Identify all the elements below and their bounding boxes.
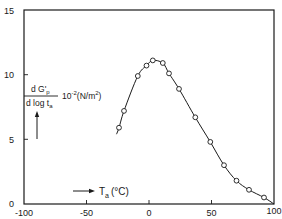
x-tick-label: 0	[146, 208, 151, 218]
x-tick-label: 50	[206, 208, 216, 218]
y-tick-label: 15	[4, 6, 14, 16]
data-curve	[117, 60, 275, 204]
y-tick-label: 10	[4, 70, 14, 80]
y-label-numerator: d G'p	[31, 84, 50, 95]
data-point-marker	[247, 187, 252, 192]
data-point-marker	[177, 87, 182, 92]
data-point-marker	[160, 61, 165, 66]
data-point-marker	[167, 71, 172, 76]
plot-frame	[24, 10, 274, 204]
data-point-marker	[222, 163, 227, 168]
data-point-marker	[117, 125, 122, 130]
data-point-marker	[234, 178, 239, 183]
chart: -100 -50 0 50 100 0 5 10 15 d G'p d log …	[0, 0, 282, 219]
y-axis-label: d G'p d log ta 10-2(N/m2)	[24, 84, 102, 109]
x-tick-label: 100	[266, 206, 281, 216]
x-label-text: Ta(°C)	[99, 186, 129, 199]
x-tick-label: -100	[15, 208, 33, 218]
x-tick-label: -50	[80, 208, 93, 218]
y-label-denominator: d log ta	[26, 98, 53, 109]
data-point-marker	[150, 58, 155, 63]
data-point-marker	[122, 109, 127, 114]
y-tick-label: 5	[9, 135, 14, 145]
data-point-marker	[144, 63, 149, 68]
data-point-marker	[193, 115, 198, 120]
y-tick-label: 0	[9, 199, 14, 209]
data-markers	[117, 58, 267, 200]
y-tick-labels: 0 5 10 15	[4, 6, 14, 210]
y-label-units: 10-2(N/m2)	[62, 90, 102, 101]
x-ticks	[87, 200, 212, 204]
x-direction-arrow-icon	[73, 189, 95, 193]
data-point-marker	[208, 140, 213, 145]
x-tick-labels: -100 -50 0 50 100	[15, 206, 282, 218]
data-point-marker	[262, 195, 267, 200]
data-point-marker	[135, 74, 140, 79]
x-axis-label: Ta(°C)	[73, 186, 129, 199]
y-direction-arrow-icon	[35, 111, 39, 139]
